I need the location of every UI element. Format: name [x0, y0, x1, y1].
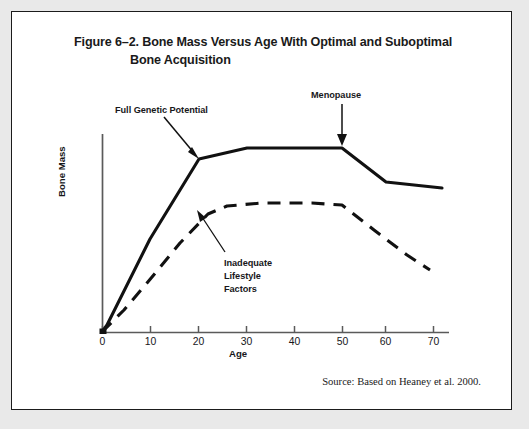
chart-plot-area: [12, 12, 513, 411]
annotation-full-genetic-potential: Full Genetic Potential: [115, 104, 208, 117]
x-axis-title: Age: [229, 348, 247, 359]
arrow-full-genetic-potential: [164, 117, 199, 159]
arrow-inadequate-lifestyle-factors: [197, 210, 225, 252]
annotation-menopause: Menopause: [311, 89, 361, 102]
figure-panel: Figure 6–2. Bone Mass Versus Age With Op…: [12, 12, 511, 409]
source-note: Source: Based on Heaney et al. 2000.: [322, 376, 481, 387]
annotation-inadequate-lifestyle-factors: Inadequate Lifestyle Factors: [224, 257, 272, 296]
x-tick-label-20: 20: [186, 336, 212, 347]
x-tick-label-0: 0: [90, 336, 116, 347]
figure-root: Figure 6–2. Bone Mass Versus Age With Op…: [0, 0, 529, 429]
figure-frame: Figure 6–2. Bone Mass Versus Age With Op…: [11, 11, 512, 410]
x-tick-label-60: 60: [373, 336, 399, 347]
arrow-menopause: [337, 104, 347, 146]
x-tick-label-10: 10: [138, 336, 164, 347]
x-axis-ticks: [103, 326, 434, 333]
y-axis-title: Bone Mass: [56, 146, 67, 197]
x-tick-label-30: 30: [234, 336, 260, 347]
x-tick-label-40: 40: [282, 336, 308, 347]
series-line-optimal: [102, 148, 442, 332]
x-tick-label-50: 50: [330, 336, 356, 347]
x-tick-label-70: 70: [421, 336, 447, 347]
